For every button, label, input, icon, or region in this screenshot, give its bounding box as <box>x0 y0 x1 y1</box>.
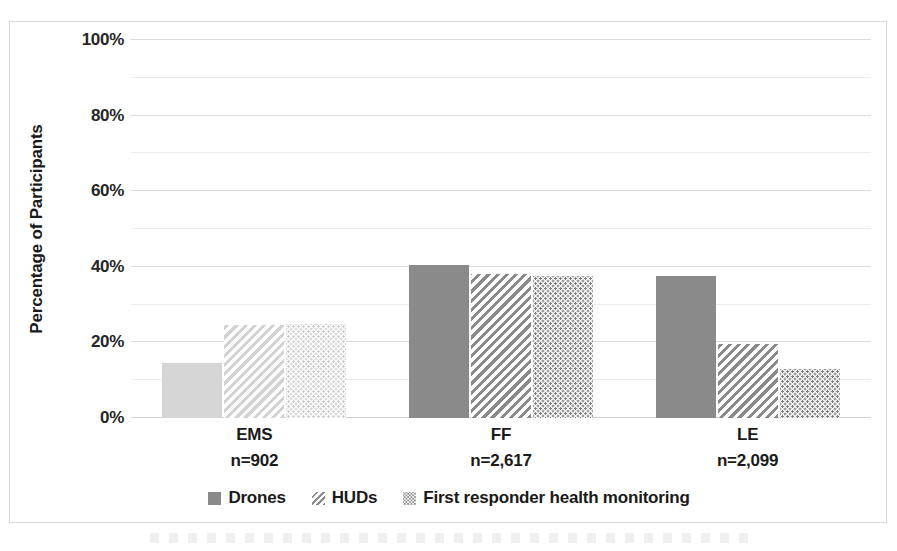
x-axis-labels: EMSn=902FFn=2,617LEn=2,099 <box>131 422 871 492</box>
y-axis-title-text: Percentage of Participants <box>27 124 47 333</box>
plot-area <box>131 40 871 418</box>
x-axis-sample-size: n=902 <box>131 448 378 474</box>
x-axis-label-ff: FFn=2,617 <box>378 422 625 475</box>
y-axis-tick-20: 20% <box>52 332 124 352</box>
bar-le-first-responder-health-monitoring[interactable] <box>780 369 840 418</box>
legend-item-label: HUDs <box>332 488 378 508</box>
y-axis-tick-80: 80% <box>52 106 124 126</box>
bar-le-huds[interactable] <box>718 344 778 418</box>
bar-group-le <box>624 40 871 418</box>
x-axis-label-le: LEn=2,099 <box>624 422 871 475</box>
legend-item-label: Drones <box>228 488 285 508</box>
bar-ems-first-responder-health-monitoring[interactable] <box>286 324 346 419</box>
y-axis-tick-labels: 100%80%60%40%20%0% <box>46 40 124 418</box>
bar-ff-first-responder-health-monitoring[interactable] <box>533 276 593 418</box>
bar-group-ff <box>378 40 625 418</box>
x-axis-category-name: LE <box>624 422 871 448</box>
x-axis-category-name: EMS <box>131 422 378 448</box>
hatch-swatch-icon <box>312 492 325 505</box>
bar-group-ems <box>131 40 378 418</box>
y-axis-tick-0: 0% <box>52 408 124 428</box>
legend-item-huds[interactable]: HUDs <box>312 488 378 508</box>
x-axis-sample-size: n=2,617 <box>378 448 625 474</box>
chart-legend: DronesHUDsFirst responder health monitor… <box>10 488 888 508</box>
y-axis-tick-100: 100% <box>52 30 124 50</box>
solid-swatch-icon <box>208 492 221 505</box>
legend-item-label: First responder health monitoring <box>423 488 689 508</box>
legend-item-drones[interactable]: Drones <box>208 488 285 508</box>
bar-ff-drones[interactable] <box>409 265 469 418</box>
bar-ems-huds[interactable] <box>224 325 284 418</box>
y-axis-tick-40: 40% <box>52 257 124 277</box>
x-axis-category-name: FF <box>378 422 625 448</box>
x-axis-label-ems: EMSn=902 <box>131 422 378 475</box>
bar-le-drones[interactable] <box>656 276 716 418</box>
bar-ems-drones[interactable] <box>162 363 222 418</box>
dots-swatch-icon <box>403 492 416 505</box>
x-axis-sample-size: n=2,099 <box>624 448 871 474</box>
scan-artifact <box>150 533 750 543</box>
bar-ff-huds[interactable] <box>471 274 531 418</box>
chart-frame: Percentage of Participants 100%80%60%40%… <box>9 21 887 523</box>
legend-item-first-responder-health-monitoring[interactable]: First responder health monitoring <box>403 488 689 508</box>
y-axis-tick-60: 60% <box>52 181 124 201</box>
